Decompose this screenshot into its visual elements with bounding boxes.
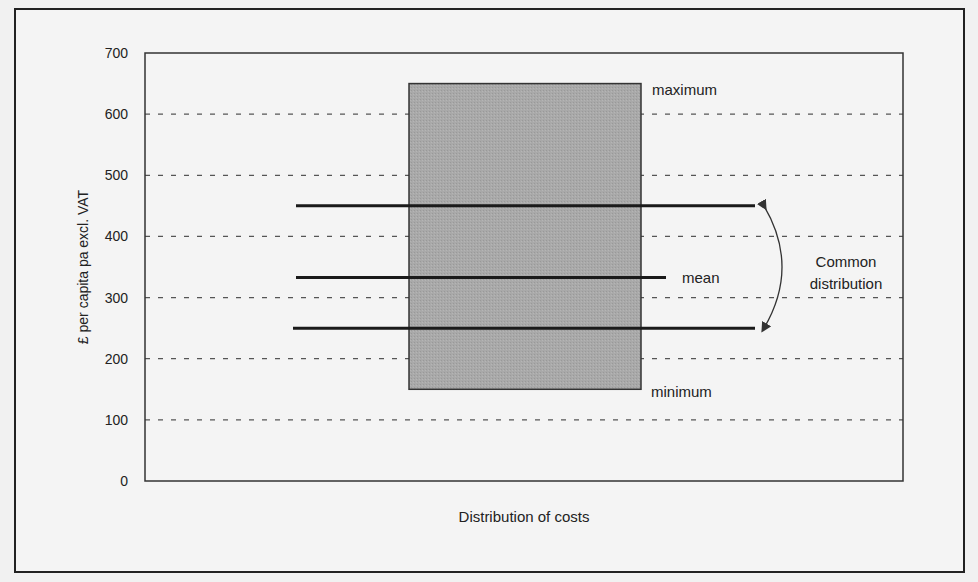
y-tick-label: 300 (105, 290, 129, 306)
y-tick-label: 0 (120, 473, 128, 489)
common-distribution-label-2: distribution (810, 275, 883, 292)
maximum-label: maximum (652, 81, 717, 98)
common-distribution-arrow (764, 206, 782, 328)
distribution-box (409, 84, 641, 390)
y-axis-ticks: 0100200300400500600700 (105, 45, 129, 489)
x-axis-label: Distribution of costs (459, 508, 590, 525)
common-distribution-label-1: Common (816, 253, 877, 270)
box-chart: 0100200300400500600700 £ per capita pa e… (0, 0, 978, 582)
mean-label: mean (682, 269, 720, 286)
minimum-label: minimum (651, 383, 712, 400)
y-tick-label: 500 (105, 167, 129, 183)
y-tick-label: 400 (105, 228, 129, 244)
y-tick-label: 200 (105, 351, 129, 367)
y-tick-label: 100 (105, 412, 129, 428)
y-axis-label: £ per capita pa excl. VAT (75, 189, 91, 344)
y-tick-label: 700 (105, 45, 129, 61)
y-tick-label: 600 (105, 106, 129, 122)
